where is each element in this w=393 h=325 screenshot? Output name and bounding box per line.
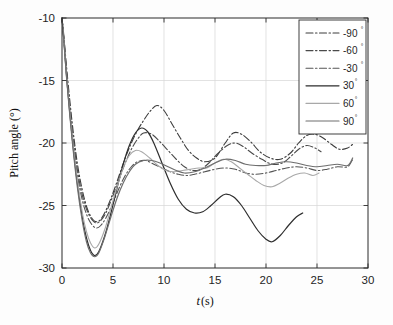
y-tick-label: -20 — [38, 137, 55, 149]
legend-degree-icon: ° — [355, 114, 358, 121]
y-tick-label: -30 — [38, 262, 55, 274]
x-tick-label: 15 — [209, 274, 222, 286]
chart-figure: 051015202530 -30-25-20-15-10 t (s) Pitch… — [0, 0, 393, 325]
x-tick-label: 25 — [311, 274, 324, 286]
legend-degree-icon: ° — [361, 26, 364, 33]
legend-degree-icon: ° — [355, 78, 358, 85]
x-tick-label: 0 — [59, 274, 65, 286]
legend-degree-icon: ° — [355, 96, 358, 103]
x-tick-labels: 051015202530 — [59, 274, 375, 286]
legend-degree-icon: ° — [361, 61, 364, 68]
x-tick-label: 10 — [158, 274, 171, 286]
x-tick-label: 5 — [110, 274, 116, 286]
y-axis-title: Pitch angle (°) — [7, 108, 21, 177]
x-axis-title-units: (s) — [201, 294, 214, 308]
legend-label-60[interactable]: 60 — [343, 98, 355, 109]
x-tick-label: 20 — [260, 274, 273, 286]
y-axis-title-label: Pitch angle (°) — [7, 108, 21, 177]
x-axis-title: t (s) — [197, 294, 214, 308]
legend-degree-icon: ° — [361, 43, 364, 50]
y-tick-labels: -30-25-20-15-10 — [38, 12, 55, 274]
x-axis-title-variable: t — [197, 294, 201, 308]
legend-label--90[interactable]: -90 — [343, 28, 358, 39]
legend-label-90[interactable]: 90 — [343, 116, 355, 127]
legend-label--30[interactable]: -30 — [343, 63, 358, 74]
chart-legend[interactable]: -90°-60°-30°30°60°90° — [299, 20, 366, 134]
y-tick-label: -10 — [38, 12, 55, 24]
legend-label--60[interactable]: -60 — [343, 45, 358, 56]
x-tick-label: 30 — [362, 274, 375, 286]
y-tick-label: -25 — [38, 200, 55, 212]
pitch-angle-line-chart: 051015202530 -30-25-20-15-10 t (s) Pitch… — [0, 0, 393, 325]
legend-label-30[interactable]: 30 — [343, 80, 355, 91]
y-tick-label: -15 — [38, 75, 55, 87]
